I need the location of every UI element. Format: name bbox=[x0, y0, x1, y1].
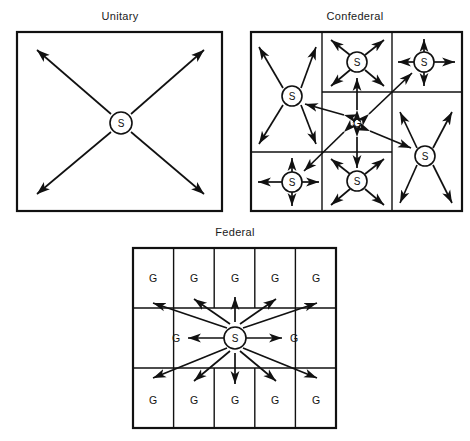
federal-cell-top-2: G bbox=[190, 272, 198, 284]
state5-node-label: S bbox=[354, 176, 361, 187]
federal-cell-bot-2: G bbox=[190, 394, 198, 406]
panel-federal: S G G G G G G G G G G G G bbox=[133, 248, 336, 428]
federal-cell-top-1: G bbox=[149, 272, 157, 284]
federal-cell-mid-right: G bbox=[290, 332, 298, 344]
federal-cell-bot-3: G bbox=[231, 394, 239, 406]
federal-cell-top-3: G bbox=[231, 272, 239, 284]
panel-title-federal: Federal bbox=[120, 226, 350, 238]
state1-node-label: S bbox=[289, 91, 296, 102]
federal-cell-mid-left: G bbox=[172, 332, 180, 344]
federal-cell-bot-1: G bbox=[149, 394, 157, 406]
federal-cell-bot-5: G bbox=[312, 394, 320, 406]
panel-confederal: S S S bbox=[251, 32, 462, 211]
diagram-canvas: S bbox=[0, 0, 470, 441]
federal-cell-top-5: G bbox=[312, 272, 320, 284]
government-systems-diagram: Unitary Confederal Federal S bbox=[0, 0, 470, 441]
state6-node-label: S bbox=[422, 151, 429, 162]
federal-cell-bot-4: G bbox=[271, 394, 279, 406]
federal-cell-top-4: G bbox=[271, 272, 279, 284]
panel-unitary: S bbox=[17, 32, 222, 211]
state2-node-label: S bbox=[354, 57, 361, 68]
federal-node-label: S bbox=[232, 333, 239, 344]
confederal-center-label: G bbox=[353, 117, 361, 129]
unitary-center-node: S bbox=[110, 112, 132, 134]
unitary-node-label: S bbox=[118, 118, 125, 129]
state3-node-label: S bbox=[421, 57, 428, 68]
state4-node-label: S bbox=[289, 177, 296, 188]
panel-title-unitary: Unitary bbox=[0, 10, 240, 22]
panel-title-confederal: Confederal bbox=[245, 10, 465, 22]
federal-center-node: S bbox=[224, 327, 246, 349]
